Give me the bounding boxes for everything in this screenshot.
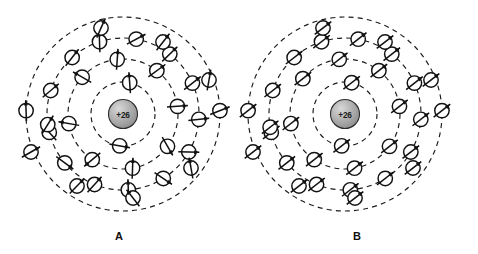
atom-spin-figure: +26A +26B	[0, 0, 478, 254]
electron	[350, 32, 367, 46]
electron	[125, 158, 139, 179]
electron	[279, 156, 296, 170]
electron	[56, 156, 73, 170]
electron	[286, 50, 303, 64]
electron	[87, 177, 101, 193]
electron	[405, 161, 422, 175]
nucleus: +26	[331, 100, 360, 129]
electron	[346, 161, 363, 175]
electron	[245, 145, 262, 159]
electron	[371, 63, 388, 77]
electron	[291, 179, 308, 193]
electron	[156, 34, 170, 51]
electron	[262, 120, 279, 134]
electron	[434, 103, 451, 117]
electron	[333, 139, 350, 153]
spin-arrow-head	[126, 179, 130, 184]
electron	[313, 35, 330, 49]
electron	[127, 32, 146, 46]
electron	[306, 152, 323, 166]
spin-arrow-head	[131, 158, 135, 163]
electron	[308, 177, 325, 191]
electron	[202, 70, 216, 91]
electron	[70, 178, 85, 193]
electron	[126, 190, 140, 207]
electron	[155, 171, 172, 185]
atom-diagram-b: +26B	[239, 0, 478, 254]
electron	[391, 99, 408, 113]
electron	[160, 137, 174, 155]
electron	[19, 100, 33, 121]
electron	[43, 83, 59, 97]
electron	[240, 103, 257, 117]
electron	[413, 112, 430, 126]
electron	[184, 76, 201, 90]
electron	[59, 116, 80, 130]
electron	[315, 21, 332, 35]
electron	[65, 49, 79, 66]
panel-label-a: A	[115, 230, 123, 242]
electron	[331, 52, 348, 66]
electron	[347, 191, 364, 205]
electron	[109, 139, 130, 153]
nucleus: +26	[109, 100, 138, 129]
electron	[343, 76, 360, 90]
nucleus-charge-label: +26	[338, 110, 352, 120]
electron	[283, 116, 300, 130]
panel-label-b: B	[353, 230, 361, 242]
electron	[184, 158, 198, 179]
electron	[377, 35, 394, 49]
electron	[188, 112, 209, 126]
electron	[22, 145, 40, 159]
electron	[110, 49, 124, 70]
electron	[122, 72, 136, 93]
electron	[264, 83, 281, 97]
nucleus-charge-label: +26	[116, 110, 130, 120]
electron	[167, 99, 188, 113]
electron	[178, 145, 199, 159]
electron	[295, 71, 312, 85]
electron	[423, 73, 440, 87]
spin-arrow-head	[194, 150, 199, 154]
atom-diagram-a: +26A	[0, 0, 239, 254]
electron	[148, 63, 165, 77]
electron	[406, 76, 423, 90]
electron	[73, 70, 91, 84]
electron	[210, 103, 229, 117]
electron	[403, 145, 420, 159]
electron	[381, 139, 398, 153]
electron	[377, 171, 394, 185]
electron	[84, 152, 100, 166]
